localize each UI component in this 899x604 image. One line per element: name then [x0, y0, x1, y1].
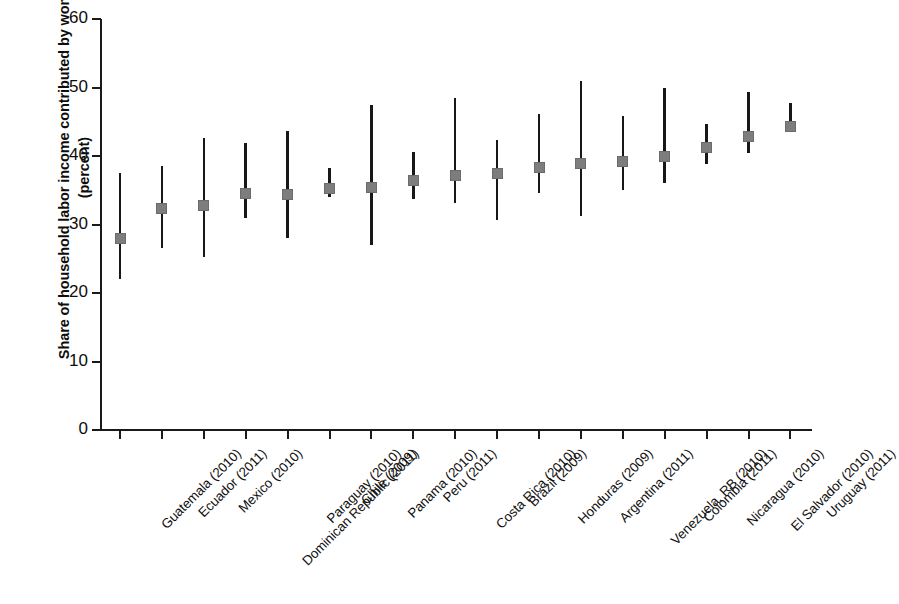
- range-bar: [286, 131, 289, 237]
- mean-marker: [785, 121, 796, 132]
- y-axis-tick: [92, 18, 101, 20]
- mean-marker: [492, 168, 503, 179]
- x-axis-tick: [370, 430, 372, 439]
- x-axis-category-label: Mexico (2010): [235, 446, 305, 516]
- range-bar: [119, 173, 122, 279]
- mean-marker: [575, 158, 586, 169]
- y-axis-tick-label: 10: [26, 351, 88, 371]
- x-axis-tick: [161, 430, 163, 439]
- mean-marker: [324, 183, 335, 194]
- x-axis-tick: [748, 430, 750, 439]
- y-axis-tick: [92, 155, 101, 157]
- range-bar: [663, 88, 666, 183]
- y-axis-tick: [92, 361, 101, 363]
- x-axis-tick: [245, 430, 247, 439]
- x-axis-tick: [622, 430, 624, 439]
- y-axis-tick: [92, 292, 101, 294]
- y-axis-tick: [92, 224, 101, 226]
- y-axis-tick: [92, 429, 101, 431]
- range-bar: [244, 143, 247, 218]
- mean-marker: [240, 188, 251, 199]
- range-bar: [370, 105, 373, 245]
- range-bar: [203, 138, 206, 257]
- x-axis-tick: [664, 430, 666, 439]
- x-axis-tick: [538, 430, 540, 439]
- y-axis-tick-label: 50: [26, 77, 88, 97]
- mean-marker: [743, 131, 754, 142]
- x-axis-tick: [454, 430, 456, 439]
- y-axis-tick-label: 40: [26, 145, 88, 165]
- y-axis-tick-label: 60: [26, 8, 88, 28]
- x-axis-tick: [329, 430, 331, 439]
- mean-marker: [282, 189, 293, 200]
- mean-marker: [198, 200, 209, 211]
- y-axis-tick-label: 30: [26, 214, 88, 234]
- mean-marker: [408, 175, 419, 186]
- x-axis-tick: [203, 430, 205, 439]
- x-axis-category-label: Argentina (2011): [616, 446, 695, 525]
- x-axis-tick: [580, 430, 582, 439]
- y-axis-tick: [92, 87, 101, 89]
- range-bar: [622, 116, 625, 190]
- range-bar: [580, 81, 583, 216]
- y-axis-tick-label: 0: [26, 419, 88, 439]
- mean-marker: [366, 182, 377, 193]
- range-bar: [496, 140, 499, 220]
- range-bar: [747, 92, 750, 152]
- x-axis-tick: [789, 430, 791, 439]
- mean-marker: [701, 142, 712, 153]
- x-axis-tick: [412, 430, 414, 439]
- x-axis-tick: [119, 430, 121, 439]
- mean-marker: [450, 170, 461, 181]
- y-axis-tick-label: 20: [26, 282, 88, 302]
- x-axis-tick: [496, 430, 498, 439]
- range-bar: [454, 98, 457, 203]
- mean-marker: [534, 162, 545, 173]
- mean-marker: [156, 203, 167, 214]
- x-axis-tick: [706, 430, 708, 439]
- mean-marker: [617, 156, 628, 167]
- x-axis-tick: [287, 430, 289, 439]
- mean-marker: [659, 151, 670, 162]
- mean-marker: [115, 233, 126, 244]
- range-bar: [538, 114, 541, 193]
- y-axis-tick-labels: 0102030405060: [0, 0, 88, 440]
